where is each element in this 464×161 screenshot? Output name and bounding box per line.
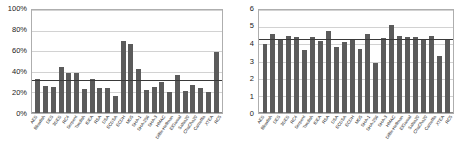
- bar-slot[interactable]: [181, 10, 189, 113]
- bar[interactable]: [334, 47, 339, 113]
- bar-slot[interactable]: [435, 10, 443, 113]
- bar[interactable]: [358, 49, 363, 113]
- bar-slot[interactable]: [174, 10, 182, 113]
- bar[interactable]: [278, 39, 283, 113]
- bar-slot[interactable]: [65, 10, 73, 113]
- bar-slot[interactable]: [81, 10, 89, 113]
- bar[interactable]: [43, 86, 48, 113]
- bar[interactable]: [397, 36, 402, 113]
- bar-slot[interactable]: [419, 10, 427, 113]
- bar[interactable]: [136, 69, 141, 113]
- bar[interactable]: [413, 37, 418, 113]
- bar-slot[interactable]: [396, 10, 404, 113]
- bar[interactable]: [144, 90, 149, 113]
- bar-slot[interactable]: [443, 10, 451, 113]
- bar[interactable]: [167, 92, 172, 113]
- plot-area-right: [258, 9, 454, 114]
- bar-slot[interactable]: [404, 10, 412, 113]
- bar[interactable]: [121, 41, 126, 113]
- y-tick-label: 6: [250, 5, 254, 13]
- bar[interactable]: [421, 40, 426, 113]
- bar-slot[interactable]: [158, 10, 166, 113]
- bar[interactable]: [302, 50, 307, 113]
- bar[interactable]: [405, 37, 410, 113]
- bar[interactable]: [310, 37, 315, 113]
- bar[interactable]: [152, 87, 157, 113]
- bar-slot[interactable]: [301, 10, 309, 113]
- bar[interactable]: [445, 40, 450, 113]
- bar[interactable]: [159, 82, 164, 113]
- bar[interactable]: [326, 31, 331, 113]
- bar[interactable]: [82, 89, 87, 113]
- bar[interactable]: [206, 92, 211, 113]
- bar-slot[interactable]: [332, 10, 340, 113]
- bar-slot[interactable]: [143, 10, 151, 113]
- bar[interactable]: [35, 79, 40, 113]
- bar-slot[interactable]: [412, 10, 420, 113]
- bar[interactable]: [113, 96, 118, 114]
- bar[interactable]: [270, 34, 275, 113]
- bar-slot[interactable]: [42, 10, 50, 113]
- bar-slot[interactable]: [50, 10, 58, 113]
- bar-slot[interactable]: [34, 10, 42, 113]
- bar-slot[interactable]: [197, 10, 205, 113]
- bar[interactable]: [365, 34, 370, 113]
- bar[interactable]: [214, 52, 219, 113]
- bar[interactable]: [373, 63, 378, 113]
- bar-slot[interactable]: [364, 10, 372, 113]
- bar-slot[interactable]: [388, 10, 396, 113]
- bar-slot[interactable]: [261, 10, 269, 113]
- bar-slot[interactable]: [150, 10, 158, 113]
- bar-series-left: [32, 10, 222, 113]
- bar-slot[interactable]: [372, 10, 380, 113]
- bar[interactable]: [429, 36, 434, 113]
- bar[interactable]: [97, 88, 102, 113]
- bar[interactable]: [51, 87, 56, 113]
- bar-slot[interactable]: [324, 10, 332, 113]
- bar-slot[interactable]: [135, 10, 143, 113]
- bar-slot[interactable]: [212, 10, 220, 113]
- bar-slot[interactable]: [104, 10, 112, 113]
- bar[interactable]: [128, 44, 133, 113]
- bar[interactable]: [263, 44, 268, 113]
- y-tick-label: 20%: [12, 89, 27, 97]
- bar[interactable]: [318, 41, 323, 113]
- bar[interactable]: [183, 91, 188, 113]
- bar[interactable]: [198, 88, 203, 113]
- bar[interactable]: [74, 73, 79, 113]
- bar[interactable]: [286, 36, 291, 113]
- bar-slot[interactable]: [427, 10, 435, 113]
- bar-slot[interactable]: [112, 10, 120, 113]
- bar[interactable]: [294, 37, 299, 113]
- average-line-right: [259, 39, 453, 40]
- bar-slot[interactable]: [88, 10, 96, 113]
- bar-slot[interactable]: [277, 10, 285, 113]
- bar[interactable]: [389, 25, 394, 113]
- bar[interactable]: [66, 73, 71, 113]
- bar-slot[interactable]: [57, 10, 65, 113]
- bar-slot[interactable]: [293, 10, 301, 113]
- bar-slot[interactable]: [309, 10, 317, 113]
- bar[interactable]: [342, 42, 347, 113]
- bar-slot[interactable]: [205, 10, 213, 113]
- bar[interactable]: [437, 56, 442, 113]
- bar[interactable]: [90, 79, 95, 113]
- bar[interactable]: [59, 67, 64, 113]
- bar-slot[interactable]: [73, 10, 81, 113]
- bar-slot[interactable]: [269, 10, 277, 113]
- bar-slot[interactable]: [96, 10, 104, 113]
- bar[interactable]: [350, 39, 355, 113]
- bar-slot[interactable]: [380, 10, 388, 113]
- bar-slot[interactable]: [189, 10, 197, 113]
- bar-slot[interactable]: [166, 10, 174, 113]
- bar[interactable]: [381, 38, 386, 113]
- bar[interactable]: [190, 85, 195, 113]
- bar-slot[interactable]: [285, 10, 293, 113]
- bar-slot[interactable]: [127, 10, 135, 113]
- bar-slot[interactable]: [356, 10, 364, 113]
- bar-slot[interactable]: [316, 10, 324, 113]
- bar-slot[interactable]: [340, 10, 348, 113]
- bar-slot[interactable]: [348, 10, 356, 113]
- bar-slot[interactable]: [119, 10, 127, 113]
- bar[interactable]: [105, 88, 110, 113]
